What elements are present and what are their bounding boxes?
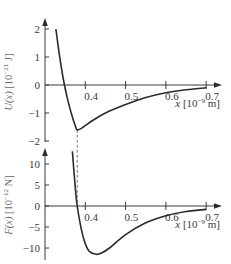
top-y-tick-label: −2 [28,135,40,147]
bottom-y-tick-label: −5 [28,221,40,233]
bottom-y-tick-label: 0 [35,200,41,212]
bottom-y-tick-label: 5 [35,179,41,191]
bottom-x-tick-label: 0.4 [84,211,98,223]
top-y-ticks: 210−1−2 [28,23,49,147]
bottom-y-tick-label: 10 [29,158,41,170]
top-y-tick-label: 2 [35,23,41,35]
bottom-x-axis-arrow-icon [214,203,222,209]
potential-energy-curve [56,29,206,130]
top-y-tick-label: −1 [28,107,40,119]
bottom-y-tick-label: −10 [23,242,41,254]
top-y-tick-label: 0 [35,79,41,91]
potential-energy-chart: 210−1−2 0.40.50.60.7 x [10−9 m] U(x) [10… [2,18,222,206]
bottom-x-axis-title: x [10−9 m] [174,218,220,230]
bottom-y-axis-title: F(x) [10−12 N] [2,175,15,235]
force-chart: 1050−5−10 0.40.50.60.7 x [10−9 m] F(x) [… [2,148,222,260]
bottom-y-axis-arrow-icon [42,148,48,156]
bottom-x-tick-label: 0.5 [125,211,139,223]
top-y-axis-arrow-icon [42,18,48,26]
top-y-axis-title: U(x) [10−21 J] [2,53,15,110]
top-x-tick-label: 0.4 [84,90,98,102]
force-curve [72,151,206,254]
top-x-axis-arrow-icon [214,82,222,88]
top-y-tick-label: 1 [35,51,41,63]
chart-figure: 210−1−2 0.40.50.60.7 x [10−9 m] U(x) [10… [0,0,231,264]
top-x-axis-title: x [10−9 m] [174,97,220,109]
